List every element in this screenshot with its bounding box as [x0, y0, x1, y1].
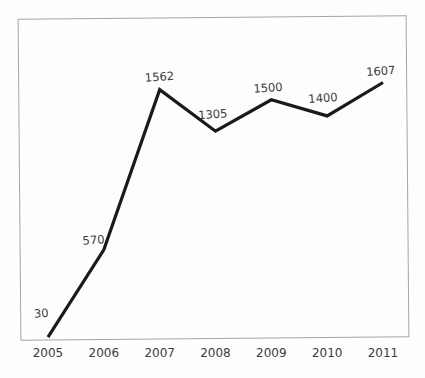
x-tick-label: 2007: [144, 346, 175, 360]
point-value-label: 1607: [366, 63, 396, 79]
x-tick-label: 2010: [312, 346, 343, 360]
chart-page: 3057015621305150014001607200520062007200…: [0, 0, 425, 378]
point-value-label: 1305: [198, 106, 228, 122]
x-tick-label: 2011: [368, 346, 399, 360]
point-value-label: 1562: [144, 69, 174, 85]
x-tick-label: 2009: [256, 346, 287, 360]
x-tick-label: 2008: [200, 346, 231, 360]
line-chart: 3057015621305150014001607200520062007200…: [0, 0, 425, 378]
point-value-label: 570: [82, 232, 105, 247]
x-tick-label: 2006: [89, 346, 120, 360]
point-value-label: 1500: [253, 80, 283, 96]
point-value-label: 1400: [308, 90, 338, 106]
point-value-label: 30: [33, 306, 49, 321]
x-tick-label: 2005: [33, 346, 64, 360]
